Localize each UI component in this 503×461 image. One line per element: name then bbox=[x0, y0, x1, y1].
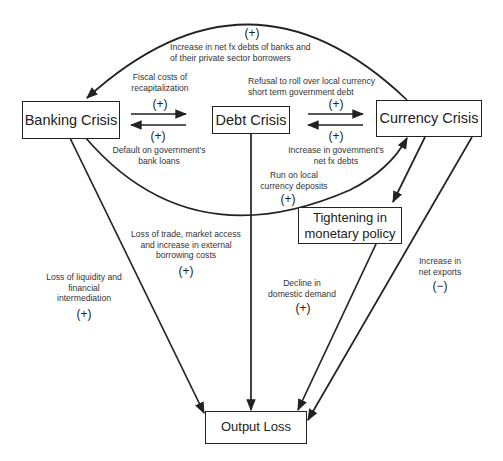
label-tightening-to-output: Decline in domestic demand bbox=[262, 278, 342, 299]
label-currency-to-debt: Increase in government's net fx debts bbox=[282, 145, 390, 166]
sign-currency-to-output: (−) bbox=[426, 279, 454, 293]
sign-banking-to-output: (+) bbox=[70, 307, 98, 321]
label-currency-to-banking: Increase in net fx debts of banks and of… bbox=[170, 42, 340, 63]
label-debt-to-currency: Refusal to roll over local currency shor… bbox=[248, 76, 388, 97]
node-output-loss: Output Loss bbox=[205, 411, 307, 444]
node-debt-crisis: Debt Crisis bbox=[212, 106, 290, 134]
node-label: Debt Crisis bbox=[216, 112, 287, 129]
label-banking-to-output: Loss of liquidity and financial intermed… bbox=[38, 272, 130, 304]
sign-tightening-to-output: (+) bbox=[289, 301, 317, 315]
sign-banking-to-debt: (+) bbox=[146, 97, 174, 111]
node-label: Output Loss bbox=[221, 420, 291, 435]
label-banking-to-currency: Run on local currency deposits bbox=[252, 170, 336, 191]
sign-debt-to-currency: (+) bbox=[322, 97, 350, 111]
label-debt-to-banking: Default on government's bank loans bbox=[108, 145, 210, 166]
sign-debt-to-banking: (+) bbox=[144, 129, 172, 143]
node-label: Tightening in monetary policy bbox=[304, 210, 395, 241]
diagram-edges bbox=[0, 0, 503, 461]
label-currency-to-output: Increase in net exports bbox=[410, 256, 470, 277]
arrow-tightening-to-output bbox=[298, 244, 376, 410]
label-debt-to-output: Loss of trade, market access and increas… bbox=[126, 229, 246, 261]
sign-debt-to-output: (+) bbox=[172, 264, 200, 278]
label-banking-to-debt: Fiscal costs of recapitalization bbox=[120, 72, 200, 93]
node-label: Currency Crisis bbox=[379, 110, 478, 127]
node-tightening-monetary-policy: Tightening in monetary policy bbox=[298, 207, 402, 244]
arrow-currency-to-tightening bbox=[393, 137, 425, 202]
sign-currency-to-banking: (+) bbox=[238, 26, 266, 40]
node-currency-crisis: Currency Crisis bbox=[376, 100, 482, 137]
node-banking-crisis: Banking Crisis bbox=[22, 101, 120, 139]
sign-currency-to-debt: (+) bbox=[322, 129, 350, 143]
node-label: Banking Crisis bbox=[25, 112, 118, 129]
sign-banking-to-currency: (+) bbox=[274, 192, 302, 206]
